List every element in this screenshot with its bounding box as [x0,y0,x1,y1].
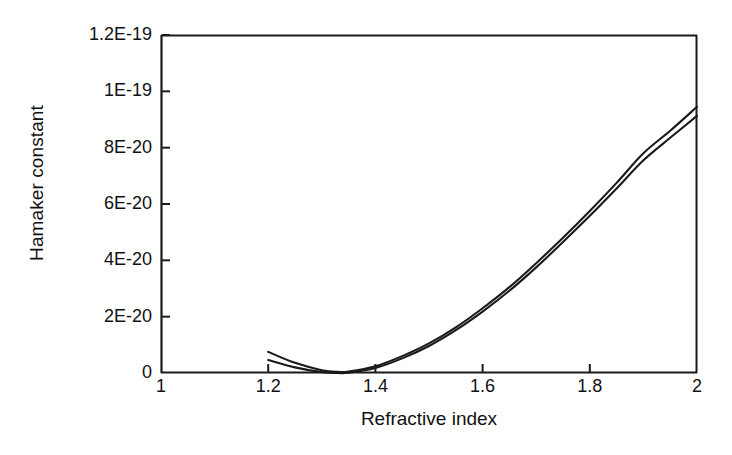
data-curves [268,107,697,373]
plot-area [0,0,732,455]
data-curve [268,116,697,373]
data-curve [268,107,697,372]
axis-frame [161,35,697,373]
tick-marks [162,35,590,372]
hamaker-constant-chart: Hamaker constant 02E-204E-206E-208E-201E… [0,0,732,455]
